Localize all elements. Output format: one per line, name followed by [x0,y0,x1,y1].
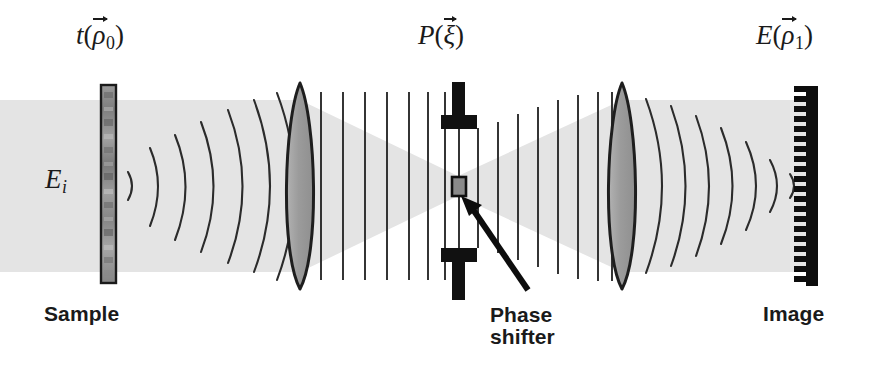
image-field-label-text: E(ρ1) [756,20,813,50]
beam-envelope-group [0,100,812,272]
detector-array [794,86,818,286]
optical-system-figure: t(ρ0) P(ξ) E(ρ1) Ei Sample Phase shifter… [0,0,869,371]
converging-beam-cone [300,100,458,272]
sample-slab-body [101,85,116,283]
sample-caption: Sample [44,303,119,325]
pupil-plane-label: P(ξ) [418,21,464,49]
phase-shifter-caption: Phase shifter [490,304,555,348]
optical-diagram-canvas [0,0,869,371]
incident-field-label-text: Ei [45,164,67,194]
sample-field-label: t(ρ0) [76,21,124,53]
image-caption: Image [763,303,824,325]
detector-backplane [806,86,818,286]
phase-shifter-caption-line1: Phase [490,304,555,326]
lower-aperture-stop-stem [452,255,465,300]
image-beam-band [620,100,812,272]
incident-field-label: Ei [45,165,67,197]
sample-slab [101,85,116,283]
image-field-label: E(ρ1) [756,21,813,53]
sample-field-label-text: t(ρ0) [76,20,124,50]
phase-shifter-element [452,177,466,196]
phase-shifter-caption-line2: shifter [490,326,555,348]
upper-aperture-stop-flange [441,115,477,129]
pupil-plane-label-text: P(ξ) [418,20,464,50]
